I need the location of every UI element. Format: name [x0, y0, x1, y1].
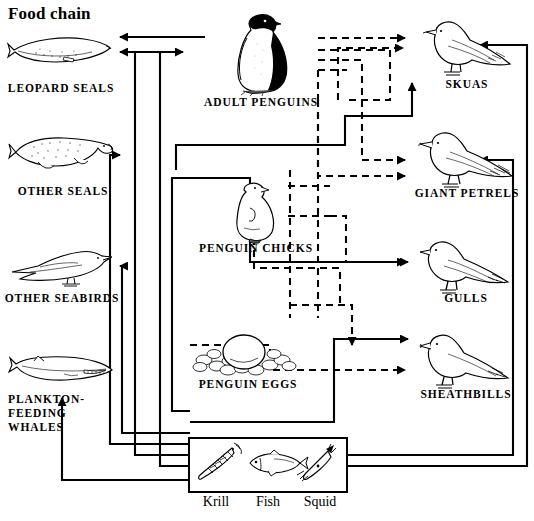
node-label-leopard-seals: LEOPARD SEALS — [8, 82, 114, 95]
edge-chicks-skuas-rail — [318, 50, 390, 100]
giant-petrel-icon — [408, 128, 526, 190]
gull-icon — [410, 238, 522, 296]
adult-penguin-icon — [205, 12, 317, 98]
penguin-egg-icon — [186, 328, 310, 378]
node-other-seals: OTHER SEALS — [8, 132, 118, 192]
node-label-other-seabirds: OTHER SEABIRDS — [5, 292, 120, 305]
penguin-chick-icon — [200, 180, 312, 244]
node-other-seabirds: OTHER SEABIRDS — [6, 248, 118, 306]
node-label-plankton-whales-line3: WHALES — [8, 421, 64, 434]
sheathbill-icon — [408, 330, 524, 392]
leopard-seal-icon — [6, 30, 116, 70]
node-label-plankton-whales-line2: FEEDING — [8, 407, 67, 420]
node-skuas: SKUAS — [412, 18, 522, 92]
edge-adultpenguins-giantpetrels-dashed — [362, 100, 405, 160]
prey-label-krill: Krill — [190, 494, 242, 510]
node-label-adult-penguins: ADULT PENGUINS — [204, 96, 318, 109]
edge-prey-otherseabirds — [120, 266, 190, 433]
edge-prey-leopardseals — [120, 52, 190, 466]
node-giant-petrels: GIANT PETRELS — [408, 128, 526, 204]
food-chain-diagram: Food chain — [0, 0, 534, 521]
seabird-icon — [6, 248, 118, 290]
prey-label-fish: Fish — [242, 494, 294, 510]
node-label-plankton-whales-line1: PLANKTON- — [8, 393, 85, 406]
skua-icon — [412, 18, 522, 80]
krill-icon — [199, 443, 242, 479]
node-label-gulls: GULLS — [444, 292, 488, 305]
prey-label-squid: Squid — [294, 494, 346, 510]
other-seal-icon — [8, 132, 118, 180]
fish-icon — [250, 450, 308, 476]
node-label-sheathbills: SHEATHBILLS — [421, 388, 512, 401]
node-label-giant-petrels: GIANT PETRELS — [415, 187, 519, 200]
node-label-penguin-eggs: PENGUIN EGGS — [199, 378, 298, 391]
node-penguin-chicks: PENGUIN CHICKS — [200, 180, 312, 258]
node-gulls: GULLS — [410, 238, 522, 310]
whale-icon — [8, 350, 118, 388]
node-adult-penguins: ADULT PENGUINS — [205, 12, 317, 110]
prey-icons — [190, 439, 342, 487]
node-plankton-whales: PLANKTON- FEEDING WHALES — [8, 350, 118, 430]
node-label-penguin-chicks: PENGUIN CHICKS — [199, 242, 313, 255]
prey-box: Krill Fish Squid — [188, 437, 348, 493]
node-label-other-seals: OTHER SEALS — [18, 185, 109, 198]
node-penguin-eggs: PENGUIN EGGS — [186, 328, 310, 390]
node-label-skuas: SKUAS — [446, 78, 489, 91]
node-sheathbills: SHEATHBILLS — [408, 330, 524, 406]
node-leopard-seals: LEOPARD SEALS — [6, 30, 116, 90]
edge-chicks-skuas-dashed — [338, 48, 403, 100]
edge-prey-adultpenguins — [135, 52, 190, 455]
edge-chicks-gulls-dashed — [330, 216, 405, 262]
edge-adultpenguins-giantpetrels-rail — [318, 60, 362, 100]
